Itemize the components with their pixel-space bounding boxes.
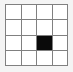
grid-cell-r4-c2[interactable]	[22, 51, 37, 65]
grid-diagram	[0, 0, 73, 72]
grid-cell-r3-c2[interactable]	[22, 36, 37, 50]
grid-cell-r3-c4[interactable]	[53, 36, 68, 50]
grid-cell-r1-c1[interactable]	[6, 5, 21, 19]
grid-cell-r2-c4[interactable]	[53, 20, 68, 34]
grid-cell-r4-c3[interactable]	[37, 51, 52, 65]
grid-cell-r2-c1[interactable]	[6, 20, 21, 34]
grid-cell-r1-c3[interactable]	[37, 5, 52, 19]
grid-cell-r1-c4[interactable]	[53, 5, 68, 19]
grid-board	[5, 4, 68, 66]
grid-cell-r2-c2[interactable]	[22, 20, 37, 34]
grid-cell-r3-c1[interactable]	[6, 36, 21, 50]
grid-cell-r4-c1[interactable]	[6, 51, 21, 65]
grid-cell-r4-c4[interactable]	[53, 51, 68, 65]
grid-cell-r2-c3[interactable]	[37, 20, 52, 34]
grid-cell-r3-c3[interactable]	[37, 36, 52, 50]
grid-cell-r1-c2[interactable]	[22, 5, 37, 19]
